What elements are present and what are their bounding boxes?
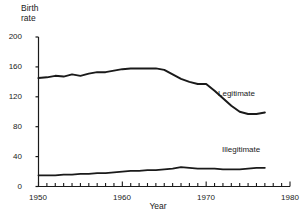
- axis-lines: [38, 37, 290, 187]
- x-axis-ticks: [39, 182, 291, 187]
- chart-figure: Birth rate Year 200 160 120 80 40 0 1950…: [0, 0, 308, 221]
- line-series-legitimate: [39, 68, 265, 114]
- chart-plot-area: [0, 0, 308, 221]
- line-series-illegitimate: [39, 167, 265, 175]
